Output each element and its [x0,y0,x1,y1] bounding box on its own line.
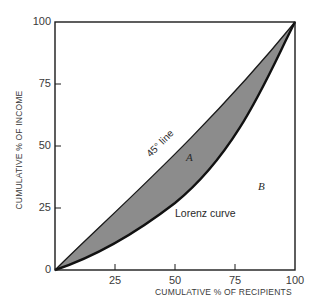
x-tick-label-25: 25 [100,275,130,286]
x-tick-label-75: 75 [220,275,250,286]
y-tick-label-0: 0 [27,264,51,275]
lorenz-curve-label: Lorenz curve [175,207,236,219]
lorenz-chart [0,0,318,307]
x-tick-label-50: 50 [160,275,190,286]
x-axis-title: CUMULATIVE % OF RECIPIENTS [155,287,292,297]
y-tick-label-75: 75 [27,78,51,89]
y-axis-title: CUMULATIVE % OF INCOME [14,90,24,209]
y-tick-label-25: 25 [27,202,51,213]
x-tick-label-100: 100 [280,275,310,286]
region-b-label: B [258,180,265,192]
equality-line [55,22,295,270]
y-tick-label-50: 50 [27,140,51,151]
region-a-label: A [186,151,193,163]
lorenz-curve [55,22,295,270]
y-tick-label-100: 100 [27,16,51,27]
plot-frame [55,22,295,270]
shaded-area-a [55,22,295,270]
